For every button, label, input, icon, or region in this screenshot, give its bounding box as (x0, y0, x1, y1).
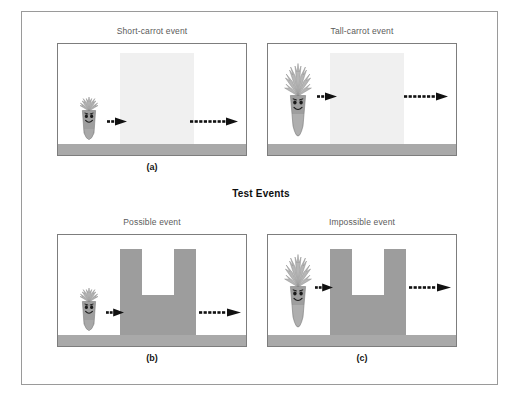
short-carrot-figure (77, 286, 101, 337)
tall-carrot-figure (283, 62, 313, 146)
push-arrow-right-icon (107, 117, 127, 126)
panel-caption-c: (c) (332, 353, 392, 363)
section-heading-test-events: Test Events (161, 188, 361, 199)
stage-tall-carrot-event (267, 43, 457, 156)
dashed-motion-arrow-right-icon (190, 117, 238, 126)
push-arrow-right-icon (317, 92, 337, 101)
event-title-impossible: Impossible event (267, 217, 457, 227)
event-title-possible: Possible event (57, 217, 247, 227)
light-screen-occluder (330, 53, 404, 146)
stage-possible-event (57, 234, 247, 347)
barrier-base (120, 295, 196, 338)
panel-caption-a: (a) (122, 162, 182, 172)
tall-carrot-figure (283, 253, 313, 337)
push-arrow-right-icon (106, 308, 124, 317)
stage-short-carrot-event (57, 43, 247, 156)
light-screen-occluder (120, 53, 194, 146)
dashed-motion-arrow-right-icon (409, 283, 451, 292)
panel-caption-b: (b) (122, 353, 182, 363)
dashed-motion-arrow-right-icon (199, 308, 241, 317)
stage-impossible-event (267, 234, 457, 347)
short-carrot-figure (77, 95, 101, 146)
figure-frame: Short-carrot event Tall-carrot event (21, 11, 498, 385)
event-title-tall-carrot: Tall-carrot event (267, 26, 457, 36)
dashed-motion-arrow-right-icon (404, 92, 448, 101)
barrier-base (330, 295, 406, 338)
push-arrow-right-icon (315, 283, 333, 292)
event-title-short-carrot: Short-carrot event (57, 26, 247, 36)
